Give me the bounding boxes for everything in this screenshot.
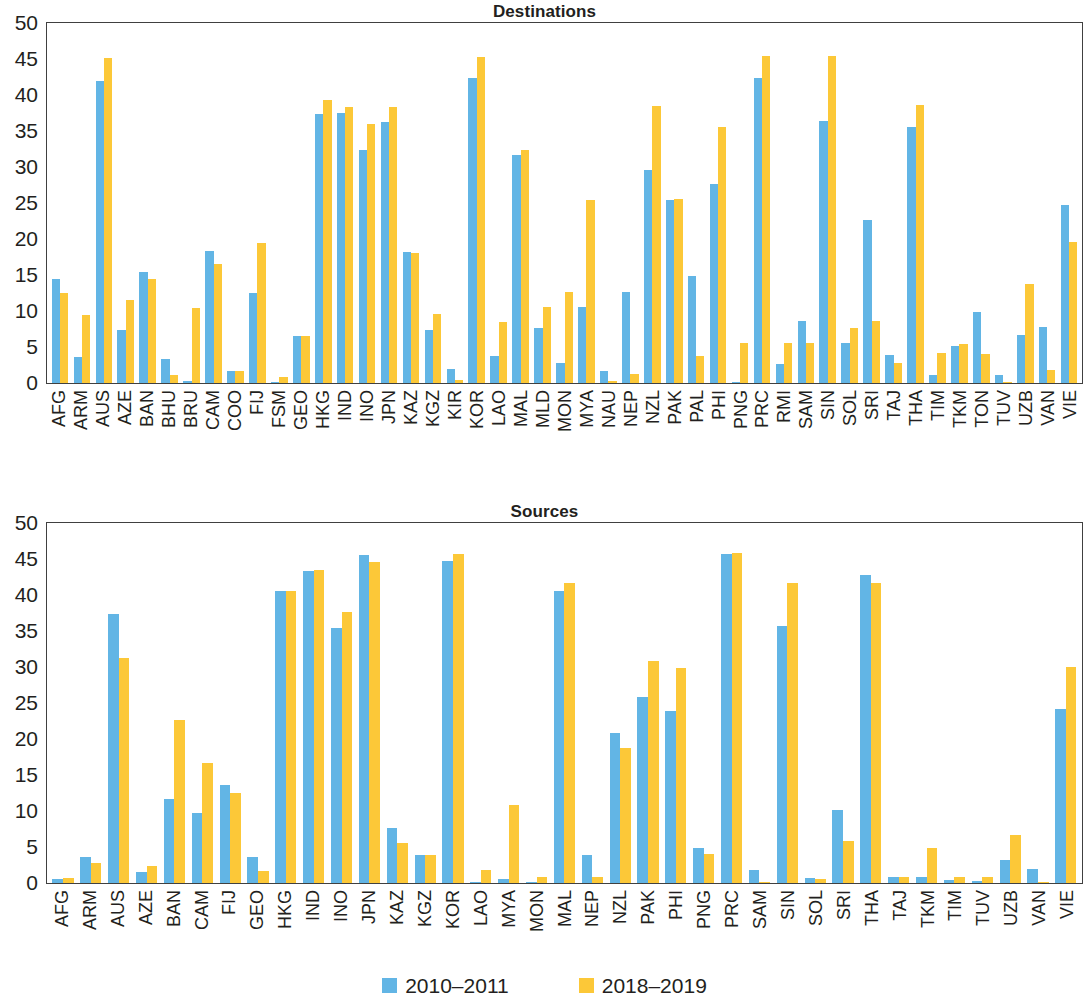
bar-dest-GEO-s0 <box>293 336 301 383</box>
bar-src-JPN-s1 <box>369 562 380 883</box>
x-tick-label: GEO <box>292 390 310 430</box>
bar-group <box>444 23 466 383</box>
bar-dest-COO-s1 <box>235 371 243 383</box>
x-tick-label: JPN <box>380 390 398 424</box>
bar-dest-MAL-s1 <box>521 150 529 383</box>
x-tick-label: GEO <box>248 890 266 930</box>
x-tick-cell: MYA <box>576 386 598 476</box>
bar-src-BAN-s1 <box>174 720 185 883</box>
x-tick-label: MAL <box>512 390 530 427</box>
bar-src-AUS-s0 <box>108 614 119 883</box>
x-tick-label: TAJ <box>885 390 903 421</box>
bar-group <box>488 23 510 383</box>
x-tick-cell: IND <box>299 886 327 962</box>
bar-group <box>1024 523 1052 883</box>
x-tick-label: TKM <box>951 390 969 428</box>
x-tick-cell: JPN <box>378 386 400 476</box>
x-tick-label: HKG <box>276 890 294 929</box>
x-tick-label: PAK <box>639 890 657 925</box>
bar-group <box>510 23 532 383</box>
bar-dest-JPN-s1 <box>389 107 397 383</box>
bar-src-PNG-s1 <box>704 854 715 883</box>
bar-group <box>203 23 225 383</box>
x-tick-cell: GEO <box>243 886 271 962</box>
bar-src-MON-s1 <box>537 877 548 883</box>
x-tick-label: NAU <box>600 390 618 428</box>
x-tick-label: CAM <box>204 390 222 430</box>
bar-group <box>773 523 801 883</box>
bar-dest-TON-s1 <box>981 354 989 383</box>
x-tick-cell: ARM <box>70 386 92 476</box>
bar-group <box>328 523 356 883</box>
x-tick-cell: MYA <box>495 886 523 962</box>
y-tick-label: 35 <box>15 620 38 641</box>
bar-dest-BHU-s0 <box>161 359 169 383</box>
bar-dest-LAO-s1 <box>499 322 507 383</box>
bar-group <box>663 23 685 383</box>
bar-src-AZE-s1 <box>147 866 158 883</box>
x-tick-label: INO <box>358 390 376 422</box>
x-tick-cell: SIN <box>817 386 839 476</box>
legend-label: 2018–2019 <box>602 975 707 996</box>
x-tick-cell: UZB <box>997 886 1025 962</box>
bar-groups-destinations <box>47 23 1082 383</box>
bar-group <box>857 523 885 883</box>
x-tick-label: VIE <box>1061 390 1079 419</box>
x-tick-label: HKG <box>314 390 332 429</box>
x-tick-cell: KGZ <box>422 386 444 476</box>
x-tick-cell: PHI <box>662 886 690 962</box>
x-tick-cell: AZE <box>132 886 160 962</box>
bar-group <box>77 523 105 883</box>
bar-src-ARM-s0 <box>80 857 91 883</box>
bar-dest-THA-s0 <box>907 127 915 383</box>
bar-dest-NZL-s0 <box>644 170 652 383</box>
x-tick-cell: PNG <box>690 886 718 962</box>
x-tick-cell: BAN <box>136 386 158 476</box>
y-tick-label: 20 <box>15 728 38 749</box>
y-tick-label: 45 <box>15 548 38 569</box>
bar-group <box>913 523 941 883</box>
bar-dest-VIE-s1 <box>1069 242 1077 383</box>
bar-dest-VAN-s0 <box>1039 327 1047 383</box>
bar-group <box>861 23 883 383</box>
bar-group <box>641 23 663 383</box>
bar-dest-AZE-s1 <box>126 300 134 383</box>
x-tick-label: PHI <box>710 390 728 420</box>
bar-group <box>422 23 444 383</box>
x-tick-cell: NAU <box>598 386 620 476</box>
bar-src-UZB-s0 <box>1000 860 1011 883</box>
x-tick-cell: HKG <box>271 886 299 962</box>
bar-dest-SAM-s0 <box>798 321 806 383</box>
bar-dest-FSM-s1 <box>279 377 287 383</box>
bar-group <box>300 523 328 883</box>
bar-src-UZB-s1 <box>1010 835 1021 883</box>
bar-dest-IND-s1 <box>345 107 353 383</box>
bar-dest-VAN-s1 <box>1047 370 1055 383</box>
bar-src-PRC-s0 <box>721 554 732 883</box>
x-tick-label: KGZ <box>416 890 434 927</box>
bar-dest-NZL-s1 <box>652 106 660 383</box>
x-tick-label: KOR <box>468 390 486 429</box>
bar-group <box>272 523 300 883</box>
chart-page: Destinations 05101520253035404550 AFGARM… <box>0 0 1089 1000</box>
y-tick-label: 30 <box>15 656 38 677</box>
bar-src-KGZ-s1 <box>425 855 436 883</box>
bar-src-MAL-s1 <box>564 583 575 883</box>
x-tick-cell: SAM <box>795 386 817 476</box>
x-tick-label: LAO <box>490 390 508 426</box>
bar-group <box>334 23 356 383</box>
bar-group <box>996 523 1024 883</box>
x-tick-cell: JPN <box>355 886 383 962</box>
x-tick-label: NZL <box>644 390 662 424</box>
x-tick-label: SRI <box>835 890 853 920</box>
x-tick-cell: VIE <box>1059 386 1081 476</box>
bar-group <box>356 23 378 383</box>
bar-group <box>745 523 773 883</box>
bar-dest-TIM-s0 <box>929 375 937 383</box>
bar-group <box>1036 23 1058 383</box>
bar-dest-COO-s0 <box>227 371 235 383</box>
bar-group <box>159 23 181 383</box>
x-tick-cell: PAL <box>686 386 708 476</box>
bar-group <box>523 523 551 883</box>
x-tick-cell: LAO <box>488 386 510 476</box>
